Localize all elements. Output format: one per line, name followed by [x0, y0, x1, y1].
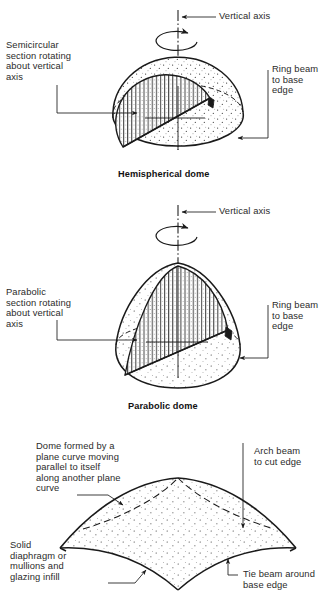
label-semicircular-section: Semicircular section rotating about vert… — [6, 40, 106, 82]
rotation-arrow-1 — [156, 31, 197, 50]
label-vertical-axis-1: Vertical axis — [219, 11, 270, 22]
leader-right-2 — [240, 305, 268, 358]
label-ring-beam-1: Ring beam to base edge — [272, 64, 332, 96]
label-arch-beam: Arch beam to cut edge — [254, 446, 330, 467]
label-dome-formed-by: Dome formed by a plane curve moving para… — [36, 441, 162, 494]
dome-types-figure: Vertical axis Semicircular section rotat… — [0, 0, 333, 595]
label-vertical-axis-2: Vertical axis — [219, 206, 270, 217]
label-parabolic-section: Parabolic section rotating about vertica… — [6, 287, 106, 329]
leader-bottomleft-3 — [108, 570, 146, 583]
label-solid-diaphragm: Solid diaphragm or mullions and glazing … — [10, 540, 96, 582]
caption-hemispherical-dome: Hemispherical dome — [118, 169, 210, 179]
label-ring-beam-2: Ring beam to base edge — [272, 300, 332, 332]
caption-parabolic-dome: Parabolic dome — [128, 401, 198, 411]
rotation-arrow-2 — [156, 226, 197, 245]
label-tie-beam: Tie beam around base edge — [243, 569, 333, 590]
